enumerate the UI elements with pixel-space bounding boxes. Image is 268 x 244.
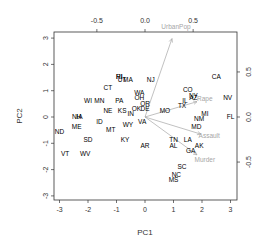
point-label: AR <box>140 142 149 149</box>
point-label: NJ <box>147 76 155 83</box>
point-label: CA <box>212 73 222 80</box>
top-tick-label: 0.0 <box>140 17 150 24</box>
y-tick-label: 0 <box>42 115 49 119</box>
y-axis-left: -3-2-10123 <box>42 36 54 199</box>
y-tick-label: -2 <box>42 166 49 172</box>
x-tick-label: -2 <box>85 206 91 213</box>
point-label: DE <box>140 105 150 112</box>
state-labels: CANVFLCONYAZILTXMINMMDLAAKGATNALSCNCMSMO… <box>55 73 235 183</box>
point-label: MN <box>94 97 104 104</box>
point-label: ID <box>96 118 103 125</box>
point-label: WV <box>80 150 91 157</box>
loading-label: Murder <box>194 156 215 163</box>
point-label: KY <box>121 136 130 143</box>
y-tick-label: 1 <box>42 89 49 93</box>
y-tick-label: -1 <box>42 140 49 146</box>
point-label: NV <box>223 94 233 101</box>
right-tick-label: 0.5 <box>245 67 252 77</box>
right-tick-label: -0.5 <box>245 156 252 168</box>
y-axis-label: PC2 <box>15 108 24 124</box>
point-label: UT <box>118 76 127 83</box>
loading-arrow <box>145 102 197 117</box>
point-label: VA <box>138 118 147 125</box>
point-label: SC <box>178 163 187 170</box>
loading-label: UrbanPop <box>161 23 191 31</box>
point-label: FL <box>227 113 235 120</box>
point-label: VT <box>61 150 69 157</box>
point-label: PA <box>115 97 124 104</box>
y-tick-label: -3 <box>42 193 49 199</box>
point-label: ME <box>72 123 82 130</box>
y-tick-label: 2 <box>42 62 49 66</box>
x-tick-label: -3 <box>56 206 62 213</box>
loading-label: Rape <box>197 95 213 103</box>
x-tick-label: 1 <box>172 206 176 213</box>
x-tick-label: 2 <box>200 206 204 213</box>
right-tick-label: 0.0 <box>245 112 252 122</box>
x-axis-label: PC1 <box>137 228 153 237</box>
point-label: NE <box>103 107 113 114</box>
point-label: NH <box>72 113 82 120</box>
point-label: MO <box>160 107 170 114</box>
point-label: WI <box>84 97 92 104</box>
point-label: AL <box>170 142 178 149</box>
point-label: SD <box>83 136 92 143</box>
point-label: LA <box>184 136 193 143</box>
point-label: WY <box>123 121 134 128</box>
point-label: GA <box>186 147 196 154</box>
biplot-chart: -3-2-10123 -3-2-10123 -0.50.00.5 -0.50.0… <box>0 0 268 244</box>
point-label: MT <box>106 126 115 133</box>
point-label: NM <box>194 115 204 122</box>
point-label: IN <box>128 110 135 117</box>
x-tick-label: 3 <box>229 206 233 213</box>
x-tick-label: 0 <box>143 206 147 213</box>
point-label: AZ <box>189 94 197 101</box>
point-label: KS <box>118 107 127 114</box>
point-label: TX <box>178 102 187 109</box>
point-label: CT <box>104 84 113 91</box>
loading-label: Assault <box>199 132 221 139</box>
point-label: AK <box>195 142 204 149</box>
y-axis-right: -0.50.00.5 <box>237 67 252 168</box>
point-label: MS <box>169 176 179 183</box>
x-tick-label: -1 <box>113 206 119 213</box>
y-tick-label: 3 <box>42 36 49 40</box>
x-axis-bottom: -3-2-10123 <box>56 200 232 213</box>
point-label: ND <box>55 128 65 135</box>
top-tick-label: -0.5 <box>91 17 103 24</box>
point-label: MD <box>191 123 201 130</box>
